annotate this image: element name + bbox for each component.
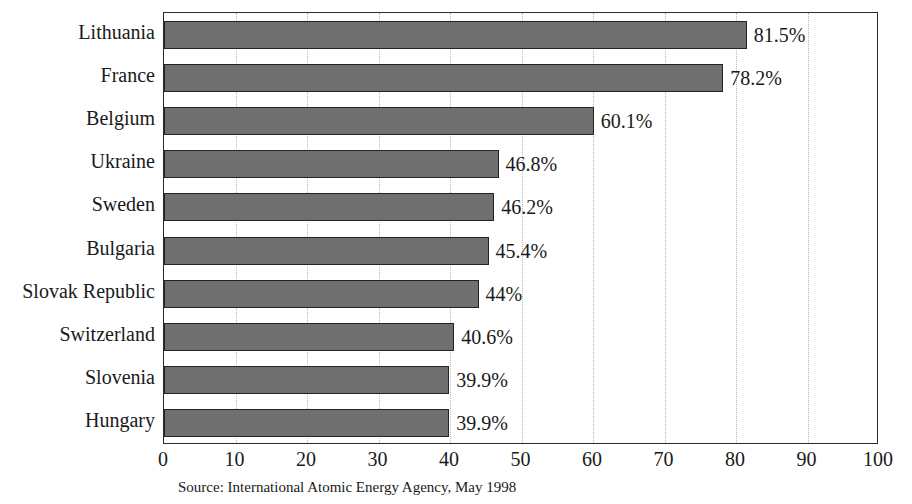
category-label: Lithuania (0, 21, 155, 44)
bar-value-label: 46.2% (494, 196, 553, 219)
x-tick-label: 30 (368, 448, 388, 471)
bar-row: 44% (164, 280, 877, 308)
bar[interactable] (164, 409, 449, 437)
bar[interactable] (164, 193, 494, 221)
category-label: Sweden (0, 193, 155, 216)
x-tick-label: 0 (158, 448, 168, 471)
bar-value-label: 78.2% (723, 66, 782, 89)
category-axis-labels: LithuaniaFranceBelgiumUkraineSwedenBulga… (0, 12, 155, 444)
x-tick-label: 50 (511, 448, 531, 471)
bar[interactable] (164, 366, 449, 394)
bar-row: 46.2% (164, 193, 877, 221)
x-tick-label: 10 (225, 448, 245, 471)
x-tick-label: 60 (582, 448, 602, 471)
bar[interactable] (164, 64, 723, 92)
category-label: France (0, 64, 155, 87)
x-tick-label: 40 (439, 448, 459, 471)
bar-value-label: 60.1% (594, 110, 653, 133)
bar[interactable] (164, 280, 479, 308)
bar[interactable] (164, 323, 454, 351)
category-label: Bulgaria (0, 237, 155, 260)
category-label: Belgium (0, 107, 155, 130)
bar-row: 39.9% (164, 366, 877, 394)
bar-row: 39.9% (164, 409, 877, 437)
bar-value-label: 39.9% (449, 412, 508, 435)
category-label: Ukraine (0, 150, 155, 173)
x-tick-label: 80 (725, 448, 745, 471)
x-tick-label: 70 (654, 448, 674, 471)
bar-value-label: 44% (479, 282, 523, 305)
bar-row: 45.4% (164, 237, 877, 265)
bar-value-label: 39.9% (449, 369, 508, 392)
chart-title (0, 0, 912, 2)
category-label: Slovenia (0, 366, 155, 389)
category-label: Slovak Republic (0, 280, 155, 303)
bar-row: 81.5% (164, 21, 877, 49)
bar-value-label: 45.4% (489, 239, 548, 262)
bar-value-label: 40.6% (454, 326, 513, 349)
x-tick-label: 100 (863, 448, 893, 471)
bar-row: 78.2% (164, 64, 877, 92)
bar-row: 60.1% (164, 107, 877, 135)
category-label: Switzerland (0, 323, 155, 346)
bar[interactable] (164, 237, 489, 265)
x-axis: 0102030405060708090100 (163, 444, 878, 474)
bar[interactable] (164, 107, 594, 135)
bars-layer: 81.5%78.2%60.1%46.8%46.2%45.4%44%40.6%39… (164, 13, 877, 443)
x-tick-label: 20 (296, 448, 316, 471)
bar[interactable] (164, 21, 747, 49)
plot-area: 81.5%78.2%60.1%46.8%46.2%45.4%44%40.6%39… (163, 12, 878, 444)
bar-row: 46.8% (164, 150, 877, 178)
bar-value-label: 46.8% (499, 153, 558, 176)
category-label: Hungary (0, 409, 155, 432)
source-note: Source: International Atomic Energy Agen… (178, 479, 516, 496)
bar-chart-figure: LithuaniaFranceBelgiumUkraineSwedenBulga… (0, 0, 912, 504)
bar-row: 40.6% (164, 323, 877, 351)
bar-value-label: 81.5% (747, 23, 806, 46)
bar[interactable] (164, 150, 499, 178)
x-tick-label: 90 (797, 448, 817, 471)
